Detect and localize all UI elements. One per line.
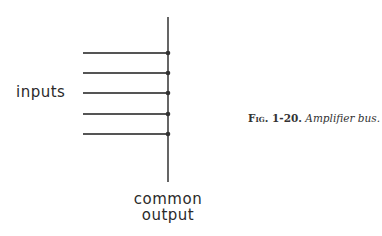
figure-title: Amplifier bus. [305, 112, 380, 124]
common-output-label-line2: output [132, 207, 204, 224]
inputs-label: inputs [16, 84, 65, 101]
input-lines [83, 53, 168, 134]
figure-caption: Fig. 1-20. Amplifier bus. [248, 112, 380, 124]
junction-dot-5 [166, 132, 171, 137]
junction-dot-1 [166, 51, 171, 56]
junction-dot-3 [166, 91, 171, 96]
junction-dot-2 [166, 71, 171, 76]
junction-dot-4 [166, 112, 171, 117]
figure-number: Fig. 1-20. [248, 112, 302, 124]
